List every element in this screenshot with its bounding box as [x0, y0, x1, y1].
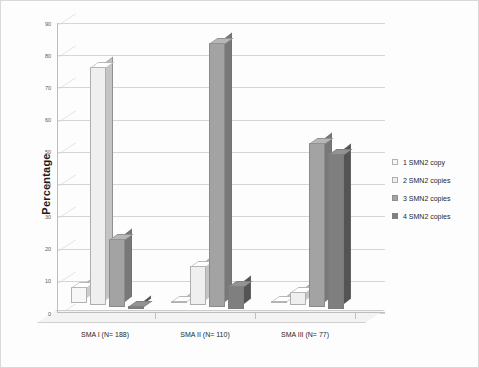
legend-item-label: 3 SMN2 copies — [403, 195, 450, 202]
bar-side — [225, 32, 232, 302]
y-axis-tick-label: 60 — [45, 117, 51, 123]
bar-face — [90, 67, 106, 305]
bar[interactable] — [290, 292, 306, 305]
bar-side — [125, 229, 132, 302]
bar-face — [71, 287, 87, 303]
legend-item-label: 1 SMN2 copy — [403, 159, 445, 166]
bar[interactable] — [228, 286, 244, 309]
bar-face — [109, 239, 125, 307]
y-axis-line — [57, 23, 58, 313]
legend-item[interactable]: 3 SMN2 copies — [392, 189, 476, 207]
chart-legend: 1 SMN2 copy2 SMN2 copies3 SMN2 copies4 S… — [392, 153, 476, 225]
bar-face — [290, 292, 306, 305]
bar[interactable] — [109, 239, 125, 307]
bar[interactable] — [209, 43, 225, 307]
x-axis-tick — [255, 313, 256, 319]
bar[interactable] — [171, 301, 187, 303]
bar-side — [344, 144, 351, 304]
x-axis-tick-label: SMA II (N= 110) — [180, 331, 229, 338]
bar-face — [309, 143, 325, 307]
legend-swatch-icon — [392, 159, 398, 165]
legend-swatch-icon — [392, 177, 398, 183]
bar[interactable] — [309, 143, 325, 307]
bar[interactable] — [190, 266, 206, 305]
legend-item-label: 2 SMN2 copies — [403, 177, 450, 184]
y-axis-tick-label: 40 — [45, 182, 51, 188]
x-axis-tick-label: SMA I (N= 188) — [81, 331, 129, 338]
legend-item[interactable]: 1 SMN2 copy — [392, 153, 476, 171]
y-axis-tick-label: 0 — [48, 311, 51, 317]
bar-group — [271, 23, 347, 313]
bar-face — [190, 266, 206, 305]
bar[interactable] — [128, 306, 144, 309]
y-axis-tick-label: 30 — [45, 214, 51, 220]
plot-area: 0102030405060708090 SMA I (N= 188)SMA II… — [57, 23, 385, 323]
y-axis-tick-label: 10 — [45, 278, 51, 284]
bar[interactable] — [271, 301, 287, 303]
y-axis-tick-label: 20 — [45, 246, 51, 252]
bar-face — [209, 43, 225, 307]
bar-face — [328, 154, 344, 309]
bar-face — [228, 286, 244, 309]
legend-swatch-icon — [392, 195, 398, 201]
y-axis-tick-label: 80 — [45, 53, 51, 59]
legend-item-label: 4 SMN2 copies — [403, 213, 450, 220]
legend-item[interactable]: 4 SMN2 copies — [392, 207, 476, 225]
bar[interactable] — [71, 287, 87, 303]
y-axis-tick-label: 70 — [45, 85, 51, 91]
x-axis-tick — [155, 313, 156, 319]
bar-top — [128, 301, 153, 307]
x-axis-tick-label: SMA III (N= 77) — [281, 331, 329, 338]
chart-figure: Percentage 0102030405060708090 SMA I (N=… — [0, 0, 479, 368]
legend-swatch-icon — [392, 213, 398, 219]
bar[interactable] — [328, 154, 344, 309]
bar-group — [71, 23, 147, 313]
y-axis-tick-label: 90 — [45, 21, 51, 27]
y-axis-tick-label: 50 — [45, 149, 51, 155]
bar-group — [171, 23, 247, 313]
x-axis-tick — [355, 313, 356, 319]
legend-item[interactable]: 2 SMN2 copies — [392, 171, 476, 189]
bar[interactable] — [90, 67, 106, 305]
